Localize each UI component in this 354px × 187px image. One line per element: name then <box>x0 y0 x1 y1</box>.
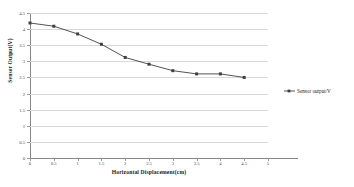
data-point-marker <box>76 32 79 35</box>
x-axis-title: Horizontal Displacement(cm) <box>30 169 268 176</box>
y-tick-mark <box>27 45 30 46</box>
x-tick-mark <box>244 158 245 161</box>
x-tick-mark <box>173 158 174 161</box>
data-point-marker <box>243 76 246 79</box>
y-tick-label: 4.5 <box>19 11 25 16</box>
x-tick-label: 4.5 <box>241 161 247 166</box>
x-tick-label: 1.5 <box>99 161 105 166</box>
data-point-marker <box>171 69 174 72</box>
y-tick-label: 3 <box>23 59 25 64</box>
x-tick-label: 1 <box>76 161 78 166</box>
plot-area <box>30 13 268 158</box>
data-point-marker <box>148 63 151 66</box>
y-tick-label: 1 <box>23 123 25 128</box>
y-tick-label: 0 <box>23 156 25 161</box>
x-tick-label: 3.5 <box>194 161 200 166</box>
x-tick-mark <box>54 158 55 161</box>
y-tick-mark <box>27 126 30 127</box>
x-tick-mark <box>268 158 269 161</box>
x-tick-label: 0.5 <box>51 161 57 166</box>
y-tick-mark <box>27 94 30 95</box>
y-tick-label: 1.5 <box>19 107 25 112</box>
y-tick-label: 3.5 <box>19 43 25 48</box>
y-tick-mark <box>27 110 30 111</box>
x-tick-label: 2.5 <box>146 161 152 166</box>
x-tick-label: 0 <box>29 161 31 166</box>
y-tick-label: 2.5 <box>19 75 25 80</box>
legend-label-sensor-output: Sensor output/V <box>297 88 331 94</box>
x-tick-mark <box>220 158 221 161</box>
y-tick-mark <box>27 77 30 78</box>
data-point-marker <box>124 56 127 59</box>
x-tick-mark <box>101 158 102 161</box>
y-tick-mark <box>27 29 30 30</box>
data-point-marker <box>52 25 55 28</box>
x-tick-label: 5 <box>267 161 269 166</box>
x-tick-mark <box>78 158 79 161</box>
y-axis-title: Sensor Output(V) <box>7 21 14 101</box>
legend-marker-icon <box>284 88 295 94</box>
x-tick-mark <box>125 158 126 161</box>
x-tick-label: 4 <box>219 161 221 166</box>
data-point-marker <box>29 21 32 24</box>
x-axis-tick-labels: 00.511.522.533.544.55 <box>0 161 354 168</box>
y-tick-mark <box>27 13 30 14</box>
x-tick-mark <box>30 158 31 161</box>
y-tick-label: 0.5 <box>19 139 25 144</box>
y-tick-label: 2 <box>23 91 25 96</box>
data-point-marker <box>100 43 103 46</box>
data-point-marker <box>195 72 198 75</box>
x-axis-line <box>30 158 298 159</box>
chart-legend: Sensor output/V <box>284 88 331 94</box>
series-sensor-output <box>30 13 268 158</box>
data-point-marker <box>219 72 222 75</box>
x-tick-mark <box>197 158 198 161</box>
x-tick-label: 2 <box>124 161 126 166</box>
x-tick-mark <box>149 158 150 161</box>
x-tick-label: 3 <box>172 161 174 166</box>
y-tick-mark <box>27 142 30 143</box>
y-tick-label: 4 <box>23 27 25 32</box>
y-tick-mark <box>27 61 30 62</box>
series-line <box>30 23 244 77</box>
chart-figure: 00.511.522.533.544.5 Sensor Output(V) 00… <box>0 0 354 187</box>
